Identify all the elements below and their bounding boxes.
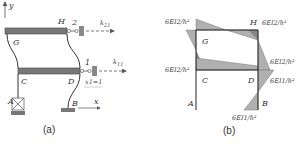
figure-b: G H C D A B 6EI2/h² 6EI2/h² 6EI2/h² 6EI2… [165,18,295,136]
node-b-label-b: B [261,99,268,108]
caption-a: (a) [43,124,55,135]
node-h-label: H [57,17,66,26]
y-axis-label: y [8,1,14,10]
moment-cd [196,58,258,70]
node-a-label-b: A [187,99,194,108]
beam-gh [5,28,67,34]
figure-a: y 2 k21 [5,1,126,135]
constraint-2-label: 2 [71,18,77,27]
caption-b: (b) [223,125,235,136]
node-c-label-b: C [202,76,208,85]
node-a-label: A [7,97,14,106]
node-g-label-b: G [202,37,209,46]
node-b-label: B [71,99,78,108]
node-g-label: G [13,38,20,47]
support-b-icon [61,108,75,112]
displacement-label: x1=1 [85,78,102,86]
node-d-label-b: D [247,76,255,85]
force-k11-label: k11 [113,58,123,67]
moment-label-b-bottom: 6EI1/h² [232,114,257,122]
moment-label-d-upper: 6EI2/h² [270,58,295,66]
moment-g-col [186,30,196,50]
node-d-label: D [67,77,75,86]
moment-gh-left [196,19,226,30]
force-k21-label: k21 [100,19,110,28]
link-2-icon [67,26,84,36]
moment-hd [258,40,270,70]
x-axis-label: x [94,97,99,106]
moment-label-g-top: 6EI2/h² [165,18,190,26]
diagram-canvas: y 2 k21 [0,0,300,144]
moment-label-h-top: 6EI2/h² [262,19,287,27]
moment-label-d-lower: 6EI1/h² [270,77,295,85]
constraint-1-label: 1 [85,58,90,67]
moment-label-c-left: 6EI2/h² [165,66,190,74]
link-1-icon [80,66,97,76]
beam-cd [18,68,80,74]
node-c-label: C [21,77,27,86]
moment-db [244,92,258,110]
column-hd [67,34,80,68]
node-h-label-b: H [249,18,258,27]
